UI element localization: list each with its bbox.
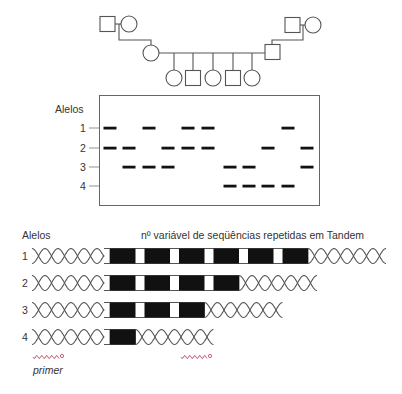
- gel-band: [224, 185, 237, 188]
- gel-band: [262, 147, 275, 150]
- tandem-repeat-unit: [145, 303, 171, 318]
- repeat-allele-label: 1: [22, 250, 28, 262]
- primer-label: primer: [33, 364, 63, 376]
- tandem-repeat-unit: [179, 276, 205, 291]
- dna-helix-strand: [205, 303, 283, 318]
- gel-electrophoresis: 1234: [80, 96, 320, 206]
- child-1-female-circle: [166, 70, 182, 86]
- gel-band: [123, 166, 136, 169]
- gel-frame: [100, 96, 320, 206]
- gel-allele-label: 1: [80, 122, 86, 134]
- gel-band: [243, 185, 256, 188]
- dna-helix-strand: [308, 249, 386, 264]
- dna-helix-strand: [136, 330, 214, 345]
- gel-band: [123, 147, 136, 150]
- dna-helix-strand: [205, 303, 283, 318]
- dna-helix-strand: [136, 330, 214, 345]
- tandem-repeat-unit: [145, 249, 171, 264]
- gel-band: [182, 147, 195, 150]
- left-grandmother-female-circle: [121, 16, 137, 32]
- primer-squiggle: [33, 355, 59, 358]
- primer-squiggle: [181, 355, 207, 358]
- child-4-male-square: [226, 71, 241, 86]
- gel-band: [282, 127, 295, 130]
- left-grandfather-male-square: [100, 17, 115, 32]
- primer-end-icon: [208, 354, 211, 357]
- tandem-repeat-unit: [110, 276, 136, 291]
- gel-band: [143, 127, 156, 130]
- right-grandfather-male-square: [285, 18, 300, 33]
- tandem-repeat-unit: [110, 249, 136, 264]
- repeat-region-edge: [104, 303, 110, 318]
- gel-band: [262, 185, 275, 188]
- tandem-repeat-unit: [214, 249, 240, 264]
- repeat-region-edge: [104, 249, 110, 264]
- gel-band: [104, 147, 117, 150]
- gel-band: [104, 127, 117, 130]
- repeat-allele-label: 3: [22, 304, 28, 316]
- repeat-region-edge: [104, 276, 110, 291]
- child-2-male-square: [186, 71, 201, 86]
- tandem-repeat-unit: [145, 276, 171, 291]
- pedigree-chart: [100, 16, 321, 86]
- repeat-region-edge: [104, 330, 110, 345]
- repeat-region: [110, 249, 308, 264]
- father-male-square: [265, 45, 280, 60]
- tandem-repeat-unit: [283, 249, 309, 264]
- repeat-allele-label: 4: [22, 331, 28, 343]
- tandem-repeat-unit: [179, 249, 205, 264]
- gel-band: [202, 147, 215, 150]
- gel-allele-label: 4: [80, 180, 86, 192]
- gel-band: [301, 166, 314, 169]
- mother-female-circle: [143, 45, 159, 61]
- gel-band: [301, 147, 314, 150]
- gel-allele-label: 2: [80, 142, 86, 154]
- vntr-figure: 1234 1234: [0, 0, 402, 394]
- tandem-repeat-unit: [179, 303, 205, 318]
- gel-allele-label: 3: [80, 161, 86, 173]
- dna-helix-strand: [308, 249, 386, 264]
- repeats-axis-label: Alelos: [22, 229, 51, 241]
- gel-band: [202, 127, 215, 130]
- dna-helix-strand: [239, 276, 317, 291]
- child-3-female-circle: [205, 70, 221, 86]
- child-5-female-circle: [244, 70, 260, 86]
- primer-end-icon: [60, 354, 63, 357]
- gel-band: [243, 166, 256, 169]
- tandem-repeat-diagram: 1234: [22, 249, 386, 359]
- gel-band: [143, 166, 156, 169]
- gel-band: [224, 166, 237, 169]
- dna-helix-strand: [239, 276, 317, 291]
- gel-band: [282, 185, 295, 188]
- tandem-repeat-unit: [110, 330, 136, 345]
- repeat-allele-label: 2: [22, 277, 28, 289]
- gel-band: [162, 166, 175, 169]
- tandem-repeat-unit: [214, 276, 240, 291]
- right-grandmother-female-circle: [305, 17, 321, 33]
- gel-band: [182, 127, 195, 130]
- repeats-title: nº variável de seqüências repetidas em T…: [141, 229, 364, 241]
- gel-axis-label: Alelos: [55, 103, 84, 115]
- tandem-repeat-unit: [110, 303, 136, 318]
- tandem-repeat-unit: [248, 249, 274, 264]
- gel-band: [162, 147, 175, 150]
